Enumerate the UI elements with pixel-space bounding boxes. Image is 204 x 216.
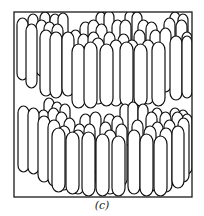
smectic-rod-diagram: [0, 0, 204, 216]
rod-molecule: [134, 44, 147, 106]
figure-caption: (c): [0, 199, 204, 212]
rod-molecule: [170, 36, 182, 100]
rod-molecule: [66, 132, 79, 194]
rod-molecule: [140, 134, 153, 196]
rod-molecule: [84, 42, 97, 108]
rod-molecule: [82, 132, 95, 196]
rod-molecule: [154, 136, 167, 196]
rod-molecules: [17, 11, 192, 196]
rod-molecule: [112, 136, 125, 196]
rod-molecule: [52, 128, 65, 192]
rod-molecule: [26, 24, 37, 88]
rod-molecule: [172, 126, 184, 188]
rod-molecule: [100, 44, 113, 106]
rod-molecule: [120, 42, 133, 106]
rod-molecule: [18, 106, 29, 172]
rod-molecule: [28, 108, 39, 174]
rod-molecule: [72, 44, 85, 108]
top-layer: [17, 11, 192, 108]
rod-molecule: [182, 36, 192, 98]
rod-molecule: [128, 130, 140, 194]
rod-molecule: [50, 32, 62, 98]
rod-molecule: [96, 134, 109, 196]
rod-molecule: [152, 42, 165, 106]
bottom-layer: [18, 98, 192, 196]
